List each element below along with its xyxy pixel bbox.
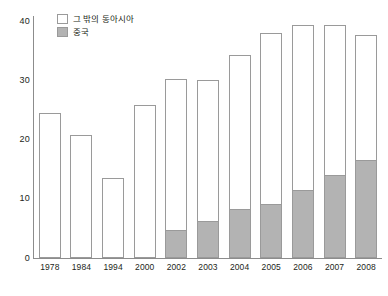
- bar-segment-other-east-asia-2002: [165, 79, 187, 229]
- y-axis-tick-20: 20: [4, 135, 30, 144]
- bar-1978: [39, 21, 61, 258]
- bar-2006: [292, 21, 314, 258]
- y-axis-tick-40: 40: [4, 17, 30, 26]
- bar-2004: [229, 21, 251, 258]
- bar-segment-china-2006: [292, 190, 314, 258]
- bar-segment-other-east-asia-2005: [260, 33, 282, 204]
- bar-segment-china-2002: [165, 230, 187, 258]
- bar-segment-other-east-asia-2003: [197, 80, 219, 220]
- bar-segment-other-east-asia-1984: [70, 135, 92, 258]
- bar-segment-other-east-asia-2008: [355, 35, 377, 161]
- y-axis-tick-10: 10: [4, 194, 30, 203]
- x-axis-tick-2008: 2008: [346, 263, 386, 272]
- bar-segment-other-east-asia-1994: [102, 178, 124, 258]
- bar-2007: [324, 21, 346, 258]
- stacked-bar-chart: 그 밖의 동아시아 중국 010203040 19781984199420002…: [0, 0, 388, 296]
- bar-2002: [165, 21, 187, 258]
- bar-2005: [260, 21, 282, 258]
- y-axis-tick-30: 30: [4, 76, 30, 85]
- bar-segment-other-east-asia-2006: [292, 25, 314, 190]
- plot-area: [34, 21, 382, 258]
- bar-segment-other-east-asia-2004: [229, 55, 251, 208]
- bar-2008: [355, 21, 377, 258]
- bar-segment-china-2008: [355, 160, 377, 258]
- bar-segment-china-2003: [197, 221, 219, 258]
- bar-segment-china-2005: [260, 204, 282, 258]
- bar-2003: [197, 21, 219, 258]
- bar-1994: [102, 21, 124, 258]
- bar-segment-other-east-asia-2007: [324, 25, 346, 175]
- bar-segment-china-2007: [324, 175, 346, 258]
- bar-2000: [134, 21, 156, 258]
- y-axis-tick-labels: 010203040: [0, 0, 30, 296]
- bar-segment-other-east-asia-2000: [134, 105, 156, 258]
- bar-segment-china-2004: [229, 209, 251, 258]
- bar-segment-other-east-asia-1978: [39, 113, 61, 258]
- y-axis-tick-0: 0: [4, 254, 30, 263]
- x-axis-line: [33, 258, 382, 259]
- bar-1984: [70, 21, 92, 258]
